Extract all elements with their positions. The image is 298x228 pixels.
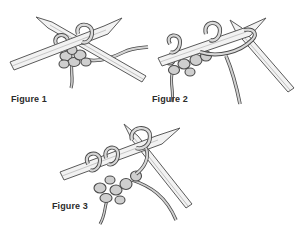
figure-3: Figure 3 (40, 110, 240, 228)
figure-3-caption: Figure 3 (52, 201, 88, 211)
figure-2-caption: Figure 2 (152, 94, 188, 104)
figure-1: Figure 1 (0, 0, 150, 110)
figure-2: Figure 2 (148, 0, 298, 110)
figure-1-caption: Figure 1 (11, 94, 47, 104)
